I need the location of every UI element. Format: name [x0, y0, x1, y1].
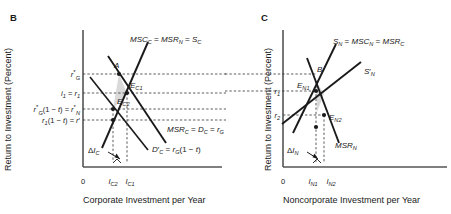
panel-c-supply-label: SN = MSCN = MSRC [333, 37, 405, 47]
panel-b-label-a: A [113, 61, 119, 70]
panel-c-point-en2-dot [322, 113, 326, 117]
panel-c-delta-arrowhead [313, 153, 319, 159]
panel-b-ytick-rg-star: r*G [71, 69, 81, 80]
panel-b-x-axis-title: Corporate Investment per Year [83, 195, 206, 205]
panel-b-delta-label: ΔIC [88, 146, 101, 156]
panel-c-ytick-r1: r1 [274, 87, 280, 97]
panel-b-origin-label: 0 [81, 177, 85, 186]
panel-b-xtick-ic1: IC1 [125, 177, 134, 187]
panel-c-x-axis-title: Noncorporate Investment per Year [283, 195, 420, 205]
panel-b-point-lower-dot [111, 118, 115, 122]
panel-c-ytick-r2: r2 [274, 111, 281, 121]
panel-b-supply-label: MSCC = MSRN = SC [130, 35, 202, 45]
panel-c-label-b: B [317, 65, 323, 74]
panel-b-xtick-ic2: IC2 [108, 177, 118, 187]
panel-b-point-ec1-dot [125, 91, 129, 95]
panel-c: C Return to Investment (Percent) [225, 0, 451, 214]
panel-b-point-ec2-dot [111, 107, 115, 111]
panel-c-xtick-in2: IN2 [326, 177, 336, 187]
panel-b-delta-arrowhead [115, 153, 121, 159]
panel-c-delta-label: ΔIN [287, 146, 300, 156]
panel-b-point-a-dot [117, 72, 121, 76]
panel-c-point-en1-dot [314, 89, 318, 93]
panel-c-origin-label: 0 [281, 177, 285, 186]
panel-b-delta-bracket [113, 159, 121, 163]
panel-b-y-axis-title: Return to Investment (Percent) [3, 48, 13, 171]
panel-c-letter: C [261, 12, 268, 23]
panel-c-supply-shifted-label: S′N [364, 67, 376, 77]
panel-b-demand-label: MSRC = DC = rG [167, 125, 225, 135]
panel-c-label-en2: EN2 [329, 113, 342, 123]
panel-c-svg: C Return to Investment (Percent) [225, 0, 451, 214]
panel-b-ytick-i1-r1: i1 = r1 [61, 89, 80, 99]
panel-b-svg: B Return to Investment (Percent) [0, 0, 226, 214]
panel-c-label-en1: EN1 [297, 81, 310, 91]
panel-b-demand-shifted-label: D′C = rG(1 − t) [152, 145, 201, 155]
panel-b: B Return to Investment (Percent) [0, 0, 226, 214]
panel-c-delta-bracket [313, 159, 321, 163]
panel-b-letter: B [10, 12, 17, 23]
panel-c-demand-label: MSRN [335, 141, 358, 151]
panel-b-ytick-rg-after-tax: r*G(1 − t) = r*N [34, 104, 81, 115]
panel-c-point-lower-dot [314, 125, 318, 129]
panel-c-xtick-in1: IN1 [308, 177, 317, 187]
panel-b-ytick-r1-after-tax: r1(1 − t) = r′ [42, 116, 80, 126]
figure-root: B Return to Investment (Percent) [0, 0, 451, 214]
panel-b-label-ec1: EC1 [130, 81, 143, 91]
panel-c-y-axis-title: Return to Investment (Percent) [263, 48, 273, 171]
